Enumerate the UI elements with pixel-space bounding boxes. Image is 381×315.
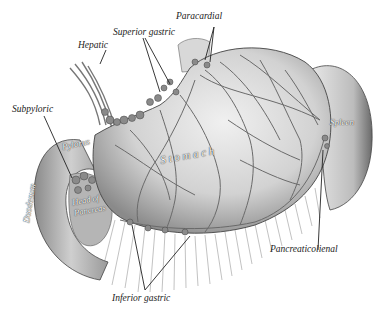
label-inferior-gastric: Inferior gastric xyxy=(112,294,170,304)
label-paracardial: Paracardial xyxy=(176,12,222,22)
label-pancreaticolienal: Pancreaticolienal xyxy=(270,245,338,255)
label-hepatic: Hepatic xyxy=(78,41,108,51)
label-superior-gastric: Superior gastric xyxy=(113,28,175,38)
label-subpyloric: Subpyloric xyxy=(12,105,53,115)
organ-label-spleen: Spleen xyxy=(330,118,354,127)
stomach-lymphatics-figure: Superior gastric Paracardial Hepatic Sub… xyxy=(0,0,381,315)
